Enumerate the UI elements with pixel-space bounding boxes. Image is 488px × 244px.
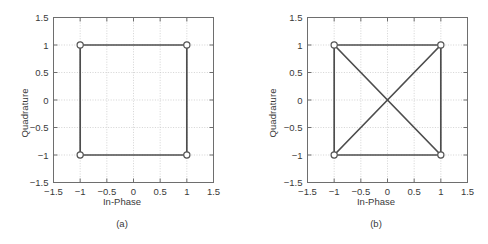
svg-text:1.5: 1.5 [207,186,220,197]
svg-text:−1: −1 [292,150,303,161]
y-axis-label-b: Quadrature [266,63,280,163]
panel-b: −1.5−1−0.500.511.5−1.5−1−0.500.511.5 Qua… [244,0,488,244]
svg-text:1.5: 1.5 [35,12,48,23]
svg-text:1: 1 [43,40,48,51]
svg-text:−0.5: −0.5 [30,122,49,133]
svg-text:0.5: 0.5 [154,186,167,197]
svg-text:−1: −1 [75,186,86,197]
svg-text:0: 0 [43,95,48,106]
svg-text:−0.5: −0.5 [284,122,303,133]
svg-text:0: 0 [297,95,302,106]
plot-b: −1.5−1−0.500.511.5−1.5−1−0.500.511.5 [244,0,488,244]
figure-constellation-diagrams: −1.5−1−0.500.511.5−1.5−1−0.500.511.5 Qua… [0,0,488,244]
svg-text:1: 1 [297,40,302,51]
svg-text:0: 0 [131,186,136,197]
panel-caption-b: (b) [254,218,488,229]
svg-text:1.5: 1.5 [461,186,474,197]
svg-text:−1.5: −1.5 [284,177,303,188]
svg-text:0.5: 0.5 [35,67,48,78]
plot-a: −1.5−1−0.500.511.5−1.5−1−0.500.511.5 [0,0,244,244]
svg-text:−1: −1 [329,186,340,197]
x-axis-label-a: In-Phase [0,196,244,207]
svg-text:−0.5: −0.5 [351,186,370,197]
svg-text:0.5: 0.5 [408,186,421,197]
panel-a: −1.5−1−0.500.511.5−1.5−1−0.500.511.5 Qua… [0,0,244,244]
y-axis-label-a: Quadrature [18,63,32,163]
svg-text:0.5: 0.5 [289,67,302,78]
svg-text:1: 1 [184,186,189,197]
svg-text:−1.5: −1.5 [30,177,49,188]
svg-text:0: 0 [385,186,390,197]
svg-text:−0.5: −0.5 [97,186,116,197]
x-axis-label-b: In-Phase [254,196,488,207]
svg-text:1: 1 [438,186,443,197]
svg-text:−1: −1 [38,150,49,161]
panel-caption-a: (a) [0,218,244,229]
svg-text:1.5: 1.5 [289,12,302,23]
